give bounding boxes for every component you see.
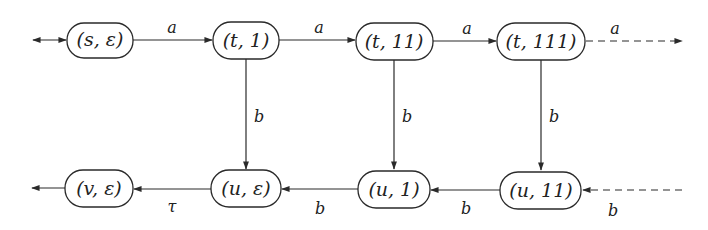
edge-label-t11-t111: a (462, 19, 472, 38)
edge-label-ueps-veps: τ (168, 197, 178, 216)
edge-label-t11-u1: b (402, 107, 412, 126)
edge-label-t111-more: a (610, 19, 620, 38)
edge-label-u11-u1: b (461, 199, 471, 218)
node-label: (u, 11) (509, 179, 572, 201)
edge-label-t1-ueps: b (254, 107, 264, 126)
automaton-diagram: (s, ε) (t, 1) (t, 11) (t, 111) (v, ε) (u… (0, 0, 708, 230)
edge-label-more-u11: b (608, 201, 618, 220)
node-label: (u, ε) (221, 177, 270, 199)
node-label: (t, 1) (223, 29, 270, 51)
node-label: (v, ε) (76, 177, 122, 199)
node-label: (t, 11) (365, 30, 424, 52)
node-s-eps: (s, ε) (67, 23, 133, 58)
node-t-1: (t, 1) (213, 22, 279, 59)
node-u-1: (u, 1) (358, 171, 430, 208)
node-t-111: (t, 111) (497, 23, 585, 60)
node-label: (s, ε) (77, 28, 124, 50)
node-label: (u, 1) (368, 178, 419, 200)
edge-label-t1-t11: a (314, 18, 324, 37)
node-u-eps: (u, ε) (211, 170, 281, 207)
edge-label-u1-ueps: b (315, 199, 325, 218)
node-t-11: (t, 11) (356, 23, 433, 60)
node-u-11: (u, 11) (500, 172, 581, 209)
edge-label-t111-u11: b (549, 107, 559, 126)
edge-label-s-t1: a (167, 18, 177, 37)
node-label: (t, 111) (506, 30, 577, 52)
node-v-eps: (v, ε) (65, 170, 133, 207)
